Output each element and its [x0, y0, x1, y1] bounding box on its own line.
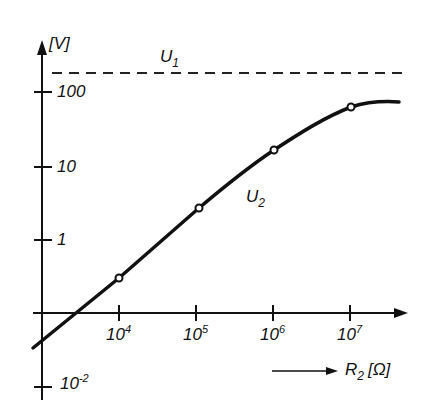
u2-label: U2 — [246, 187, 265, 207]
x-tick-base: 10 — [337, 325, 356, 344]
y-tick-label-1: 1 — [57, 230, 66, 250]
x-tick-exp: 4 — [125, 323, 131, 335]
u1-label: U1 — [160, 47, 179, 67]
y-tick-label-100: 100 — [57, 82, 85, 102]
x-tick-label-1e7: 107 — [337, 325, 362, 345]
u1-label-sub: 1 — [172, 56, 179, 70]
series-u2-line — [33, 102, 399, 348]
y-axis-arrow-icon — [37, 40, 47, 55]
y-axis-unit: [V] — [49, 34, 70, 54]
u2-label-main: U — [246, 187, 258, 206]
x-tick-exp: 5 — [202, 323, 208, 335]
x-axis-arrow-icon — [394, 308, 408, 318]
u1-label-main: U — [160, 47, 172, 66]
x-axis-label: R2[Ω] — [345, 360, 390, 380]
y-tick-base: 10 — [60, 374, 79, 393]
x-label-arrow-icon — [326, 367, 338, 375]
u2-label-sub: 2 — [258, 196, 265, 210]
y-tick-label-1e-2: 10-2 — [60, 374, 89, 394]
x-label-main: R — [345, 360, 357, 379]
x-tick-base: 10 — [260, 325, 279, 344]
x-tick-base: 10 — [183, 325, 202, 344]
x-tick-label-1e5: 105 — [183, 325, 208, 345]
x-tick-label-1e4: 104 — [106, 325, 131, 345]
x-label-unit: [Ω] — [368, 360, 390, 379]
x-label-sub: 2 — [357, 369, 364, 383]
x-tick-exp: 6 — [279, 323, 285, 335]
chart-canvas — [0, 0, 436, 417]
y-tick-label-10: 10 — [57, 157, 76, 177]
x-tick-label-1e6: 106 — [260, 325, 285, 345]
x-tick-base: 10 — [106, 325, 125, 344]
x-tick-exp: 7 — [356, 323, 362, 335]
series-u2-markers — [116, 104, 355, 282]
y-tick-exp: -2 — [79, 372, 89, 384]
